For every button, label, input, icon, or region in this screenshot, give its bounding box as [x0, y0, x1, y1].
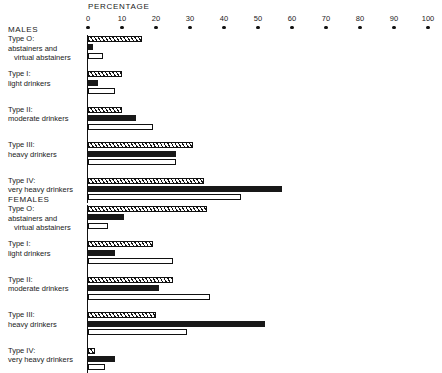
- x-axis-tick-label: 40: [220, 14, 228, 23]
- bar-series-2: [88, 285, 159, 291]
- category-name: Type IV:: [8, 346, 86, 356]
- category-name: Type IV:: [8, 176, 86, 186]
- bar-series-2: [88, 321, 265, 327]
- bar-series-3: [88, 364, 105, 370]
- category-name: Type II:: [8, 105, 86, 115]
- y-axis-baseline: [87, 35, 88, 203]
- x-axis-tick-label: 60: [288, 14, 296, 23]
- x-axis-tick-dot: [120, 26, 123, 29]
- bar-series-2: [88, 115, 136, 121]
- category-name: Type I:: [8, 239, 86, 249]
- x-axis-tick-dot: [188, 26, 191, 29]
- bar-series-1: [88, 348, 95, 354]
- x-axis-tick-label: 80: [356, 14, 364, 23]
- category-description: abstainers and: [8, 214, 86, 224]
- x-axis-tick-label: 50: [254, 14, 262, 23]
- category-label: Type I:light drinkers: [8, 239, 86, 258]
- bar-series-2: [88, 356, 115, 362]
- bar-series-1: [88, 241, 153, 247]
- y-axis-baseline: [87, 205, 88, 373]
- x-axis-tick-label: 20: [152, 14, 160, 23]
- bar-series-1: [88, 277, 173, 283]
- bar-series-2: [88, 44, 93, 50]
- category-label: Type IV:very heavy drinkers: [8, 176, 86, 195]
- group-header-females: FEMALES: [8, 195, 50, 204]
- category-description: virtual abstainers: [8, 53, 86, 63]
- category-label: Type O:abstainers andvirtual abstainers: [8, 34, 86, 63]
- bar-series-3: [88, 258, 173, 264]
- category-description: very heavy drinkers: [8, 185, 86, 195]
- category-label: Type III:heavy drinkers: [8, 310, 86, 329]
- category-name: Type I:: [8, 69, 86, 79]
- bar-series-3: [88, 88, 115, 94]
- x-axis-tick-label: 30: [186, 14, 194, 23]
- category-description: heavy drinkers: [8, 320, 86, 330]
- category-label: Type III:heavy drinkers: [8, 140, 86, 159]
- category-label: Type I:light drinkers: [8, 69, 86, 88]
- x-axis-tick-dot: [358, 26, 361, 29]
- category-name: Type II:: [8, 275, 86, 285]
- bar-series-1: [88, 206, 207, 212]
- x-axis-tick-label: 70: [322, 14, 330, 23]
- category-description: heavy drinkers: [8, 150, 86, 160]
- category-label: Type II:moderate drinkers: [8, 275, 86, 294]
- bar-series-2: [88, 214, 124, 220]
- category-description: light drinkers: [8, 249, 86, 259]
- x-axis-title: PERCENTAGE: [88, 2, 150, 11]
- bar-series-3: [88, 194, 241, 200]
- bar-series-1: [88, 107, 122, 113]
- category-label: Type O:abstainers andvirtual abstainers: [8, 204, 86, 233]
- bar-series-1: [88, 178, 204, 184]
- bar-series-1: [88, 71, 122, 77]
- bar-series-3: [88, 124, 153, 130]
- x-axis-tick-dot: [222, 26, 225, 29]
- x-axis-tick-dot: [324, 26, 327, 29]
- x-axis-tick-label: 90: [390, 14, 398, 23]
- bar-series-1: [88, 312, 156, 318]
- category-description: very heavy drinkers: [8, 355, 86, 365]
- category-description: moderate drinkers: [8, 284, 86, 294]
- category-label: Type IV:very heavy drinkers: [8, 346, 86, 365]
- bar-series-1: [88, 142, 193, 148]
- x-axis-tick-label: 10: [118, 14, 126, 23]
- x-axis-tick-dot: [426, 26, 429, 29]
- x-axis-tick-dot: [154, 26, 157, 29]
- category-description: abstainers and: [8, 44, 86, 54]
- x-axis-tick-label: 0: [86, 14, 90, 23]
- bar-series-2: [88, 186, 282, 192]
- bar-series-3: [88, 294, 210, 300]
- bar-series-3: [88, 53, 103, 59]
- bar-series-2: [88, 151, 176, 157]
- bar-series-3: [88, 223, 108, 229]
- bar-series-3: [88, 329, 187, 335]
- x-axis-tick-dot: [290, 26, 293, 29]
- bar-series-3: [88, 159, 176, 165]
- category-name: Type O:: [8, 204, 86, 214]
- bar-series-2: [88, 250, 115, 256]
- bar-series-2: [88, 80, 98, 86]
- x-axis-tick-dot: [392, 26, 395, 29]
- category-label: Type II:moderate drinkers: [8, 105, 86, 124]
- x-axis-tick-dot: [256, 26, 259, 29]
- category-name: Type III:: [8, 140, 86, 150]
- category-description: virtual abstainers: [8, 223, 86, 233]
- category-description: moderate drinkers: [8, 114, 86, 124]
- bar-series-1: [88, 36, 142, 42]
- category-name: Type III:: [8, 310, 86, 320]
- category-description: light drinkers: [8, 79, 86, 89]
- x-axis-tick-dot: [86, 26, 89, 29]
- x-axis-tick-label: 100: [422, 14, 435, 23]
- category-name: Type O:: [8, 34, 86, 44]
- group-header-males: MALES: [8, 25, 38, 34]
